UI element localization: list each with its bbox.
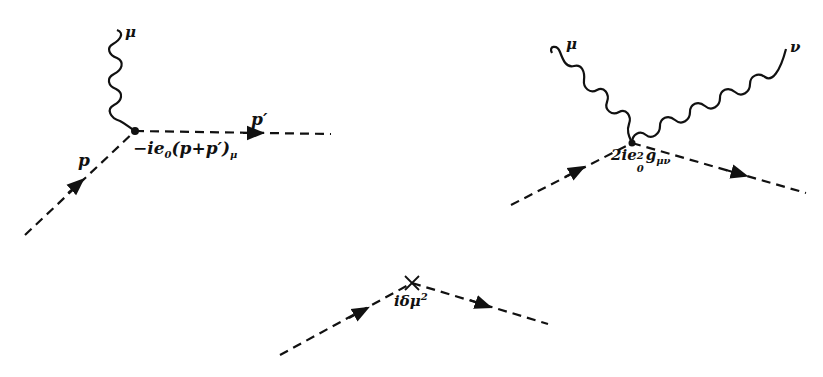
vertex-factor-g: g xyxy=(646,146,657,164)
vertex-factor-sup: 2 xyxy=(637,151,644,161)
photon-line-mu xyxy=(551,47,632,143)
vertex-factor-sub: 0 xyxy=(637,164,644,174)
photon2-index-label: ν xyxy=(790,40,800,55)
photon-line-mu xyxy=(109,30,135,131)
photon1-index-label: μ xyxy=(566,37,577,52)
feynman-diagrams xyxy=(0,0,823,377)
vertex-dot xyxy=(131,127,139,135)
incoming-scalar-line xyxy=(25,131,135,235)
incoming-arrow-icon xyxy=(349,311,362,318)
outgoing-scalar-line xyxy=(135,131,331,134)
vertex-factor-main: iδμ xyxy=(394,292,421,310)
diagram-mass-counterterm xyxy=(280,276,548,355)
cross-vertex-icon xyxy=(405,276,419,290)
vertex-factor-main: 2ie xyxy=(611,146,637,164)
vertex-factor-rest: (p+p′) xyxy=(172,138,231,158)
vertex-factor-label: 2ie20gμν xyxy=(611,148,670,166)
vertex-factor-index: μ xyxy=(230,149,237,160)
outgoing-arrow-icon xyxy=(470,300,484,305)
vertex-factor-label: iδμ2 xyxy=(394,292,428,309)
incoming-arrow-icon xyxy=(565,170,578,177)
photon-index-label: μ xyxy=(125,25,136,40)
vertex-factor-index: μν xyxy=(656,155,670,166)
incoming-arrow-icon xyxy=(68,184,78,193)
vertex-factor-sup: 2 xyxy=(421,291,428,302)
diagram-three-point-vertex xyxy=(25,30,331,235)
vertex-factor-main: −ie xyxy=(133,138,165,158)
outgoing-arrow-icon xyxy=(726,170,740,174)
incoming-momentum-label: p xyxy=(78,152,90,169)
photon-line-nu xyxy=(632,49,786,143)
vertex-factor-label: −ie0(p+p′)μ xyxy=(133,140,237,160)
incoming-scalar-line xyxy=(280,283,412,355)
vertex-factor-sub: 0 xyxy=(165,149,172,160)
diagram-seagull-vertex xyxy=(511,47,806,205)
outgoing-momentum-label: p′ xyxy=(251,111,267,128)
